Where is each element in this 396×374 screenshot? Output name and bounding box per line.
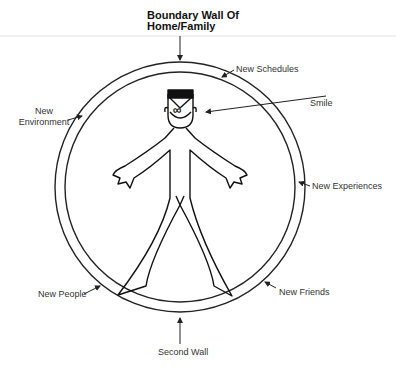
label-new-friends: New Friends xyxy=(279,287,330,298)
label-new-environment-line1: New xyxy=(18,106,70,117)
title-line-2: Home/Family xyxy=(147,21,239,32)
label-new-schedules: New Schedules xyxy=(236,64,299,75)
friends-arrow xyxy=(265,282,276,288)
person-figure xyxy=(113,90,247,296)
smile-arrow xyxy=(206,96,326,112)
label-smile: Smile xyxy=(310,98,333,109)
label-new-environment-line2: Environment xyxy=(18,117,70,128)
label-new-people: New People xyxy=(38,289,87,300)
label-new-experiences: New Experiences xyxy=(312,181,382,192)
diagram-title: Boundary Wall Of Home/Family xyxy=(147,10,239,32)
label-new-environment: New Environment xyxy=(18,106,70,128)
label-second-wall: Second Wall xyxy=(158,347,208,358)
boundary-wall-outer xyxy=(55,62,305,312)
face-infinity-symbol: ∞ xyxy=(173,105,182,116)
